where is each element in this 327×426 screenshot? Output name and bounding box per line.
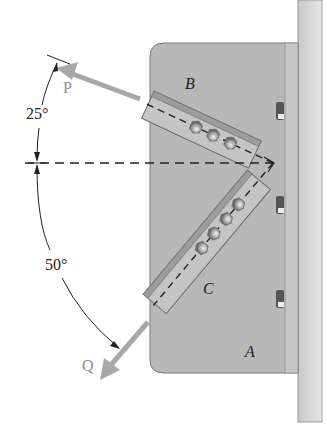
wall-bolt-icon <box>276 196 284 214</box>
bracket-force-diagram: 25° 50° P Q B C A <box>0 0 327 426</box>
wall-bolt-icon <box>276 102 284 120</box>
label-member-c: C <box>203 280 214 297</box>
label-plate-a: A <box>244 343 255 360</box>
label-50-degrees: 50° <box>45 256 67 273</box>
wall-bolt-icon <box>276 290 284 308</box>
label-member-b: B <box>185 75 195 92</box>
wall <box>298 0 322 422</box>
label-force-q: Q <box>82 357 94 374</box>
label-25-degrees: 25° <box>26 105 48 122</box>
p-direction-line <box>47 55 70 64</box>
label-force-p: P <box>63 79 72 96</box>
force-q-arrow <box>100 322 148 380</box>
